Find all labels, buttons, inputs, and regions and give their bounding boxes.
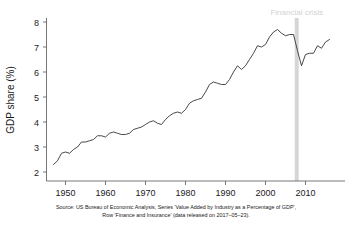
- gdp-share-series-line: [54, 30, 330, 165]
- y-tick-label-2: 2: [34, 168, 39, 178]
- x-tick-label-1980: 1980: [175, 188, 195, 198]
- caption-line-1: Source: US Bureau of Economic Analysis, …: [56, 204, 297, 210]
- x-tick-label-1960: 1960: [95, 188, 115, 198]
- y-tick-label-3: 3: [34, 143, 39, 153]
- chart-figure: Financial crisis 8 7 6 5 4 3 2 GDP share…: [0, 0, 353, 230]
- x-axis-ticks: [66, 181, 306, 185]
- y-tick-label-7: 7: [34, 43, 39, 53]
- gdp-share-line-chart: Financial crisis 8 7 6 5 4 3 2 GDP share…: [0, 0, 353, 230]
- y-axis-ticks: [43, 22, 47, 172]
- y-axis-tick-labels: 8 7 6 5 4 3 2: [34, 18, 39, 178]
- x-tick-label-2000: 2000: [255, 188, 275, 198]
- x-axis-tick-labels: 1950 1960 1970 1980 1990 2000 2010: [55, 188, 315, 198]
- y-axis-title: GDP share (%): [5, 66, 16, 134]
- financial-crisis-label: Financial crisis: [270, 8, 322, 17]
- y-tick-label-4: 4: [34, 118, 39, 128]
- x-tick-label-1990: 1990: [215, 188, 235, 198]
- y-tick-label-5: 5: [34, 93, 39, 103]
- x-tick-label-2010: 2010: [295, 188, 315, 198]
- x-tick-label-1970: 1970: [135, 188, 155, 198]
- caption-line-2: Row 'Finance and Insurance' (data releas…: [102, 212, 249, 218]
- x-tick-label-1950: 1950: [55, 188, 75, 198]
- y-tick-label-6: 6: [34, 68, 39, 78]
- y-tick-label-8: 8: [34, 18, 39, 28]
